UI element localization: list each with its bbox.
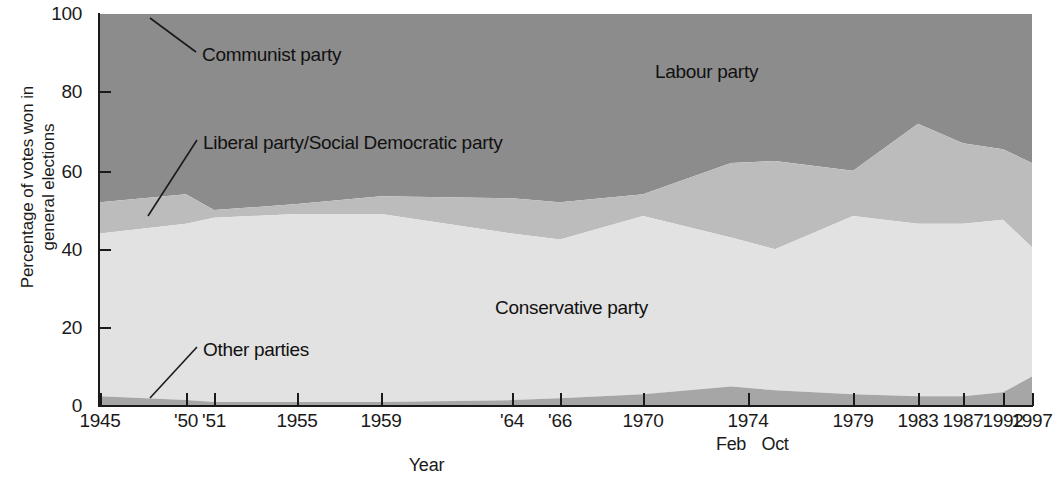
x-tickmark	[643, 393, 645, 406]
x-tickmark	[297, 393, 299, 406]
y-tickmark	[100, 91, 111, 93]
x-tick-1983: 1983	[897, 410, 938, 432]
x-tick-66: '66	[548, 410, 572, 432]
x-tick-1955: 1955	[276, 410, 317, 432]
y-axis-line	[98, 13, 100, 407]
y-tick-100: 100	[22, 4, 82, 23]
x-tick-1997: 1997	[1011, 410, 1052, 432]
x-tick-1987: 1987	[942, 410, 983, 432]
x-tickmark	[1003, 393, 1005, 406]
label-conservative-party: Conservative party	[495, 298, 648, 318]
y-tickmark	[100, 171, 111, 173]
label-labour-party: Labour party	[655, 62, 758, 82]
x-tick-1974: 1974	[727, 410, 768, 432]
x-subtick-oct: Oct	[761, 433, 788, 455]
x-tickmark	[512, 393, 514, 406]
x-tick-1959: 1959	[360, 410, 401, 432]
x-tick-50: '50	[174, 410, 198, 432]
y-tickmark	[100, 327, 111, 329]
label-liberal-sdp-party: Liberal party/Social Democratic party	[203, 133, 502, 153]
x-tick-51: '51	[202, 410, 226, 432]
x-tickmark	[963, 393, 965, 406]
x-tick-1945: 1945	[79, 410, 120, 432]
x-tickmark	[560, 393, 562, 406]
x-tickmark	[100, 393, 102, 406]
y-tickmark	[100, 249, 111, 251]
x-tickmark	[381, 393, 383, 406]
x-axis-title: Year	[0, 455, 1043, 475]
label-other-parties: Other parties	[203, 340, 309, 360]
x-tick-1979: 1979	[832, 410, 873, 432]
y-tick-60: 60	[22, 162, 82, 181]
x-tickmark	[186, 393, 188, 406]
x-tickmark	[748, 393, 750, 406]
x-tickmark	[918, 393, 920, 406]
y-tick-80: 80	[22, 82, 82, 101]
y-tick-20: 20	[22, 318, 82, 337]
x-tick-1970: 1970	[622, 410, 663, 432]
x-axis-title-text: Year	[409, 455, 445, 475]
y-tick-40: 40	[22, 240, 82, 259]
x-axis-line	[98, 405, 1033, 407]
x-tickmark	[853, 393, 855, 406]
y-axis-tick-labels: 100 80 60 40 20 0	[20, 0, 82, 478]
x-tickmark	[1032, 393, 1034, 406]
label-communist-party: Communist party	[202, 45, 341, 65]
x-tickmark	[214, 393, 216, 406]
x-tick-64: '64	[500, 410, 524, 432]
x-subtick-feb: Feb	[716, 433, 746, 455]
